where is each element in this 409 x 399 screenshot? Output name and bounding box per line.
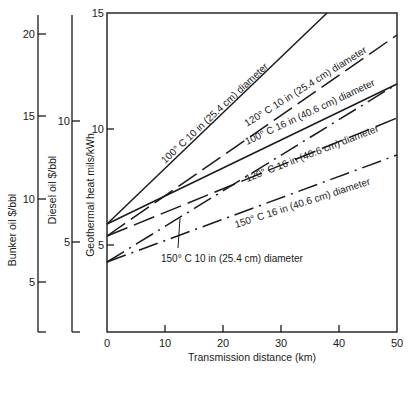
x-tick-30: 30 (275, 337, 287, 349)
y-tick-5: 5 (98, 239, 104, 251)
bunker-tick-5: 5 (29, 276, 35, 288)
diesel-tick-10: 10 (58, 115, 70, 127)
diesel-tick-5: 5 (64, 236, 70, 248)
y-axis-ticks (107, 129, 114, 245)
line-100c-16in (107, 84, 397, 224)
chart: 20 15 10 5 Bunker oil $/bbl 10 5 Diesel … (0, 0, 409, 399)
x-tick-0: 0 (104, 337, 110, 349)
x-tick-10: 10 (159, 337, 171, 349)
bunker-tick-15: 15 (23, 110, 35, 122)
label-150c-10in: 150° C 10 in (25.4 cm) diameter (161, 253, 304, 264)
label-150c-16in: 150° C 16 in (40.6 cm) diameter (233, 175, 372, 229)
bunker-oil-axis (38, 15, 46, 332)
x-tick-50: 50 (391, 337, 403, 349)
x-tick-20: 20 (217, 337, 229, 349)
bunker-oil-label: Bunker oil $/bbl (6, 194, 18, 266)
y-axis-label: Geothermal heat mils/kWh (84, 133, 96, 257)
label-pointer (178, 218, 180, 248)
bunker-tick-10: 10 (23, 193, 35, 205)
x-axis-ticks (165, 325, 339, 332)
x-tick-40: 40 (333, 337, 345, 349)
diesel-oil-axis (72, 15, 80, 332)
x-axis-label: Transmission distance (km) (188, 351, 316, 363)
diesel-oil-label: Diesel oil $/bbl (46, 156, 58, 224)
bunker-tick-20: 20 (23, 28, 35, 40)
y-tick-15: 15 (92, 7, 104, 19)
